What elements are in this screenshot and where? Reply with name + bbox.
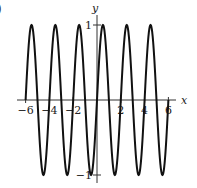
- x-tick-label: −6: [17, 104, 33, 117]
- y-tick-label: 1: [85, 19, 92, 32]
- y-axis-label: y: [91, 2, 99, 15]
- sine-chart: −6−4−22461−1 x y: [0, 0, 197, 188]
- x-axis-label: x: [181, 94, 188, 107]
